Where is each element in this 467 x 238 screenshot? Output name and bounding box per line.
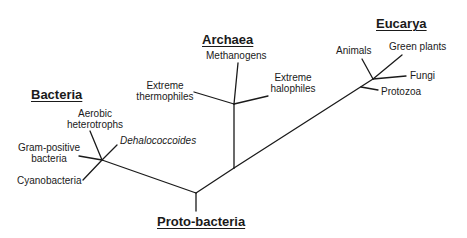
leaf-animals: Animals	[336, 45, 372, 56]
branch-extreme-halophiles	[234, 96, 268, 104]
branch-methanogens	[234, 63, 238, 104]
branch-bacteria	[102, 160, 196, 193]
branch-protozoa	[361, 87, 378, 90]
group-label-bacteria: Bacteria	[31, 87, 82, 102]
branch-root-junction	[196, 168, 234, 193]
leaf-extreme-thermophiles-line1: Extreme	[135, 80, 195, 91]
leaf-protozoa: Protozoa	[381, 86, 421, 97]
branch-gram-positive	[79, 156, 102, 160]
leaf-aerobic-heterotrophs-line1: Aerobic	[65, 108, 125, 119]
leaf-aerobic-heterotrophs-line2: heterotrophs	[65, 119, 125, 130]
leaf-extreme-thermophiles-line2: thermophiles	[135, 91, 195, 102]
leaf-extreme-halophiles-line1: Extreme	[268, 72, 318, 83]
leaf-gram-positive-line1: Gram-positive	[16, 142, 82, 153]
leaf-fungi: Fungi	[410, 70, 435, 81]
branch-cyanobacteria	[83, 160, 102, 180]
leaf-extreme-halophiles-line2: halophiles	[268, 83, 318, 94]
leaf-dehalococcoides: Dehalococcoides	[120, 135, 196, 146]
branch-animals	[362, 59, 373, 79]
group-label-eucarya: Eucarya	[376, 16, 427, 31]
group-label-protobacteria: Proto-bacteria	[157, 214, 245, 229]
branch-extreme-thermophiles	[194, 92, 234, 104]
leaf-extreme-thermophiles: Extreme thermophiles	[135, 80, 195, 102]
leaf-extreme-halophiles: Extreme halophiles	[268, 72, 318, 94]
leaf-gram-positive-line2: bacteria	[16, 153, 82, 164]
leaf-methanogens: Methanogens	[206, 50, 267, 61]
group-label-archaea: Archaea	[202, 32, 253, 47]
leaf-green-plants: Green plants	[389, 41, 446, 52]
leaf-aerobic-heterotrophs: Aerobic heterotrophs	[65, 108, 125, 130]
branch-fungi	[373, 76, 406, 79]
leaf-cyanobacteria: Cyanobacteria	[17, 175, 81, 186]
branch-dehalococcoides	[102, 145, 117, 160]
branch-aerobic-heterotrophs	[90, 131, 102, 160]
leaf-gram-positive-bacteria: Gram-positive bacteria	[16, 142, 82, 164]
branch-green-plants	[373, 55, 402, 79]
